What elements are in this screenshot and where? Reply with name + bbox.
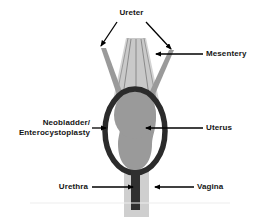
label-vagina: Vagina [197, 182, 223, 192]
label-ureter: Ureter [94, 8, 169, 18]
label-neobladder-line1: Neobladder/ [0, 118, 90, 128]
label-mesentery: Mesentery [206, 49, 246, 59]
ureter-right-arrow [146, 22, 171, 49]
label-neobladder-line2: Enterocystoplasty [0, 128, 90, 138]
uterus-shape [114, 91, 156, 170]
urethra-shape [131, 170, 140, 210]
label-neobladder: Neobladder/ Enterocystoplasty [0, 118, 90, 138]
ureter-left-arrow [101, 22, 117, 46]
label-uterus: Uterus [206, 123, 232, 133]
label-urethra: Urethra [30, 182, 88, 192]
anatomy-diagram: Ureter Mesentery Neobladder/ Enterocysto… [0, 0, 259, 217]
